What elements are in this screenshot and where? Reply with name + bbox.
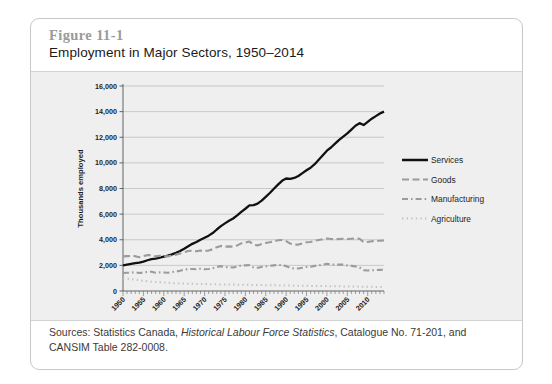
xtick-label: 1970 bbox=[191, 295, 209, 313]
figure-title: Employment in Major Sectors, 1950–2014 bbox=[49, 44, 522, 62]
xtick-label: 1985 bbox=[252, 295, 270, 313]
xtick-label: 1960 bbox=[150, 295, 168, 313]
employment-line-chart: 16,00014,00012,00010,0008,0006,0004,0002… bbox=[31, 72, 522, 318]
y-axis-label: Thousands employed bbox=[76, 149, 85, 227]
ytick-label: 4,000 bbox=[99, 235, 117, 244]
xtick-label: 1965 bbox=[170, 295, 188, 313]
figure-header: Figure 11-1 Employment in Major Sectors,… bbox=[31, 19, 522, 68]
figure-number: Figure 11-1 bbox=[49, 28, 522, 43]
figure-card: Figure 11-1 Employment in Major Sectors,… bbox=[30, 18, 523, 370]
xtick-label: 1995 bbox=[293, 295, 311, 313]
source-note: Sources: Statistics Canada, Historical L… bbox=[49, 325, 489, 355]
ytick-label: 2,000 bbox=[99, 261, 117, 270]
ytick-label: 12,000 bbox=[95, 133, 117, 142]
ytick-label: 6,000 bbox=[99, 210, 117, 219]
xtick-label: 1955 bbox=[130, 295, 148, 313]
legend-label-services: Services bbox=[431, 155, 463, 165]
ytick-label: 16,000 bbox=[95, 82, 117, 91]
legend-label-agriculture: Agriculture bbox=[431, 214, 471, 224]
source-italic-title: Historical Labour Force Statistics bbox=[181, 326, 334, 338]
ytick-label: 10,000 bbox=[95, 158, 117, 167]
ytick-label: 0 bbox=[113, 287, 117, 296]
xtick-label: 1975 bbox=[211, 295, 229, 313]
xtick-label: 1950 bbox=[109, 295, 127, 313]
xtick-label: 2005 bbox=[334, 295, 352, 313]
chart-panel: 16,00014,00012,00010,0008,0006,0004,0002… bbox=[31, 71, 522, 321]
xtick-label: 1980 bbox=[232, 295, 250, 313]
series-line-agriculture bbox=[123, 278, 384, 287]
xtick-label: 1990 bbox=[272, 295, 290, 313]
source-prefix: Sources: Statistics Canada, bbox=[49, 326, 181, 338]
xtick-label: 2000 bbox=[313, 295, 331, 313]
ytick-label: 14,000 bbox=[95, 107, 117, 116]
series-line-goods bbox=[123, 238, 384, 257]
xtick-label: 2010 bbox=[354, 295, 372, 313]
ytick-label: 8,000 bbox=[99, 184, 117, 193]
legend-label-goods: Goods bbox=[431, 175, 456, 185]
legend-label-manufacturing: Manufacturing bbox=[431, 194, 484, 204]
